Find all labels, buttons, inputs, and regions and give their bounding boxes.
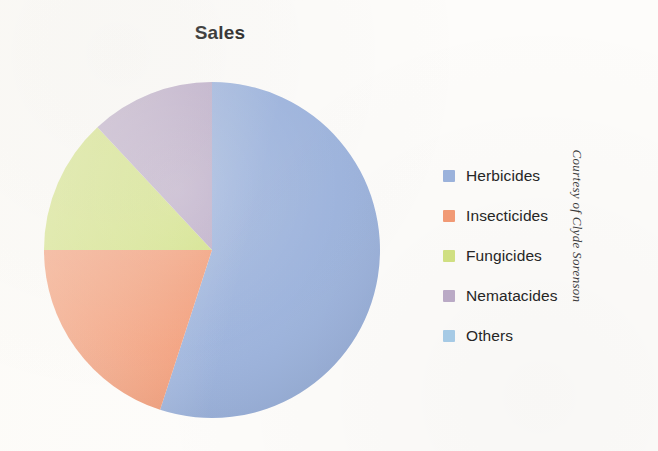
pie-chart-plot-area: [40, 75, 390, 427]
legend-swatch-icon: [443, 170, 455, 182]
pie-shading-overlay: [44, 82, 380, 418]
chart-legend: HerbicidesInsecticidesFungicidesNemataci…: [443, 156, 623, 356]
legend-item-fungicides[interactable]: Fungicides: [443, 236, 623, 276]
photo-credit: Courtesy of Clyde Sorenson: [570, 149, 586, 302]
legend-item-herbicides[interactable]: Herbicides: [443, 156, 623, 196]
pie-svg: [40, 75, 390, 427]
legend-item-nematacides[interactable]: Nematacides: [443, 276, 623, 316]
chart-title: Sales: [0, 22, 440, 44]
legend-item-insecticides[interactable]: Insecticides: [443, 196, 623, 236]
legend-item-label: Others: [466, 327, 513, 345]
legend-item-others[interactable]: Others: [443, 316, 623, 356]
pie-chart-figure: Sales HerbicidesInsecticidesFungicidesNe…: [0, 0, 658, 451]
legend-item-label: Nematacides: [466, 287, 558, 305]
legend-item-label: Herbicides: [466, 167, 540, 185]
legend-item-label: Insecticides: [466, 207, 548, 225]
legend-swatch-icon: [443, 210, 455, 222]
legend-swatch-icon: [443, 290, 455, 302]
legend-item-label: Fungicides: [466, 247, 542, 265]
legend-swatch-icon: [443, 250, 455, 262]
legend-swatch-icon: [443, 330, 455, 342]
